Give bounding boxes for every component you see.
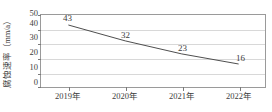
plot-area: 43 32 23 16 [40,14,266,88]
y-axis-title: 腐蚀速率（mm/a） [0,14,14,90]
y-axis-tick-labels: 0 10 20 30 40 50 [16,10,38,92]
point-label-2019: 43 [63,13,72,23]
point-label-2022: 16 [236,53,245,63]
x-tick-label-2021: 2021年 [169,90,195,102]
y-tickmark-0 [38,87,41,88]
x-tick-label-2019: 2019年 [55,90,81,102]
y-tick-label-0: 0 [16,78,38,87]
series-line-corrosion-rate [41,15,265,87]
y-tick-label-40: 40 [16,19,38,28]
x-axis-tick-labels: 2019年 2020年 2021年 2022年 [40,90,266,104]
point-label-2020: 32 [121,30,130,40]
y-tick-label-20: 20 [16,48,38,57]
y-tick-label-10: 10 [16,63,38,72]
x-tick-label-2022: 2022年 [226,90,252,102]
x-tick-label-2020: 2020年 [112,90,138,102]
y-tick-label-30: 30 [16,33,38,42]
chart-screenshot: 腐蚀速率（mm/a） 0 10 20 30 40 50 43 32 [0,0,272,112]
y-tick-label-50: 50 [16,9,38,18]
point-label-2021: 23 [178,43,187,53]
